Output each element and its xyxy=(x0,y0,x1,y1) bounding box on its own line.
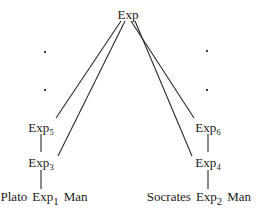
leaf-exp1-base: Exp xyxy=(32,189,53,204)
node-exp3-subscript: 3 xyxy=(49,161,53,171)
node-exp3-base: Exp xyxy=(28,155,49,170)
edge-root-to-exp4 xyxy=(135,21,192,156)
expression-tree-diagram: Exp Exp5 Exp3 Exp6 Exp4 PlatoExp1Man Soc… xyxy=(0,0,256,215)
node-exp3: Exp3 xyxy=(28,156,54,169)
node-exp6: Exp6 xyxy=(195,121,221,134)
leaf-row-right: SocratesExp2Man xyxy=(147,190,251,208)
edge-root-to-exp6 xyxy=(131,21,194,118)
leaf-exp1-subscript: 1 xyxy=(53,195,58,207)
node-exp5: Exp5 xyxy=(28,121,54,134)
node-exp5-base: Exp xyxy=(28,120,49,135)
edge-root-to-exp5 xyxy=(56,21,121,118)
leaf-left-word-plato: Plato xyxy=(1,189,28,204)
node-exp5-subscript: 5 xyxy=(49,126,53,136)
node-root-exp-label: Exp xyxy=(117,7,138,22)
ellipsis-dot-left-upper xyxy=(44,51,46,53)
leaf-left-word-man: Man xyxy=(64,189,88,204)
node-exp4-subscript: 4 xyxy=(216,161,220,171)
node-exp6-base: Exp xyxy=(195,120,216,135)
node-root-exp: Exp xyxy=(117,8,138,21)
leaf-exp2-subscript: 2 xyxy=(217,195,222,207)
leaf-row-left: PlatoExp1Man xyxy=(1,190,88,208)
ellipsis-dot-right-upper xyxy=(206,50,208,52)
leaf-right-word-man: Man xyxy=(227,189,251,204)
ellipsis-dot-left-lower xyxy=(44,89,46,91)
edge-root-to-exp3 xyxy=(58,21,125,156)
node-exp6-subscript: 6 xyxy=(216,126,220,136)
ellipsis-dot-right-lower xyxy=(206,89,208,91)
edge-layer xyxy=(0,0,256,215)
leaf-exp2-base: Exp xyxy=(196,189,217,204)
node-exp4: Exp4 xyxy=(195,156,221,169)
node-exp4-base: Exp xyxy=(195,155,216,170)
leaf-right-word-socrates: Socrates xyxy=(147,189,191,204)
